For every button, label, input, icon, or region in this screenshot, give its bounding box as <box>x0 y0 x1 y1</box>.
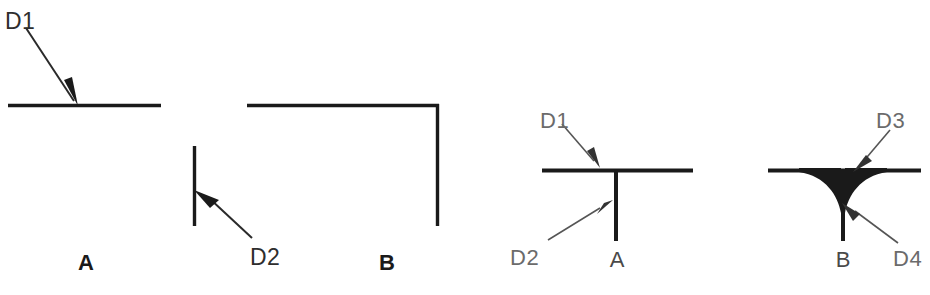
figure-b-right-caption: B <box>836 247 851 272</box>
figure-a-left-caption: A <box>78 250 94 275</box>
figure-a-left-d1-arrow-head <box>64 77 78 106</box>
figure-a-right-d1-arrow-head <box>587 147 600 168</box>
figure-a-right-group: D1 D2 A <box>510 108 693 272</box>
figure-b-right-d3-label: D3 <box>876 108 905 133</box>
figure-a-left-group: D1 A <box>5 8 161 275</box>
figure-b-right-right-fillet <box>845 168 887 213</box>
figure-a-right-d2-leader-line <box>548 208 600 240</box>
figure-a-right-caption: A <box>610 247 625 272</box>
figure-b-left-group: D2 B <box>194 104 439 275</box>
figure-b-right-left-fillet <box>799 168 841 213</box>
figure-a-right-d2-label: D2 <box>510 245 539 270</box>
figure-a-left-d1-label: D1 <box>5 8 35 34</box>
figure-b-left-d2-arrow-head <box>194 190 219 208</box>
figure-b-left-caption: B <box>379 250 395 275</box>
figure-b-left-d2-leader-line <box>209 198 252 238</box>
figure-b-right-d4-label: D4 <box>893 246 922 271</box>
figure-b-left-d2-label: D2 <box>250 244 280 270</box>
figure-a-left-d1-leader-line <box>26 28 74 101</box>
figure-sheet: D1 A D2 B <box>0 0 930 295</box>
figure-a-right-d2-arrow-head <box>597 200 613 214</box>
diagram-canvas: D1 A D2 B <box>0 0 930 295</box>
figure-b-right-d4-leader-line <box>855 211 898 243</box>
figure-a-right-d1-label: D1 <box>540 108 569 133</box>
figure-b-right-group: D3 D4 B <box>768 108 922 272</box>
